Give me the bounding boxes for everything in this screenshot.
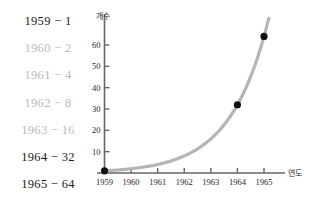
chart-svg: 102030405060 195919601961196219631964196… <box>0 0 315 205</box>
data-point <box>101 167 108 174</box>
x-tick-label: 1960 <box>123 177 140 187</box>
exponential-growth-chart: 102030405060 195919601961196219631964196… <box>0 0 315 205</box>
data-point-markers <box>101 33 268 175</box>
y-tick-label: 40 <box>92 83 101 93</box>
data-point <box>260 33 267 40</box>
x-tick-label: 1963 <box>202 177 219 187</box>
figure-root: 1959 − 11960 − 21961 − 41962 − 81963 − 1… <box>0 0 315 205</box>
growth-curve <box>105 18 269 171</box>
data-point <box>234 101 241 108</box>
x-axis-title: 연도 <box>288 169 302 178</box>
x-tick-label: 1961 <box>149 177 166 187</box>
y-tick-label: 10 <box>92 147 101 157</box>
y-tick-label: 50 <box>92 61 101 71</box>
x-tick-label: 1964 <box>229 177 247 187</box>
y-tick-label: 30 <box>92 104 101 114</box>
x-tick-label: 1962 <box>176 177 193 187</box>
y-tick-label: 60 <box>92 40 101 50</box>
y-axis-title: 개수 <box>96 11 110 21</box>
x-tick-label: 1959 <box>96 177 113 187</box>
x-axis-tick-labels: 1959196019611962196319641965 <box>96 177 273 187</box>
x-tick-label: 1965 <box>256 177 273 187</box>
y-axis-tick-labels: 102030405060 <box>92 40 101 157</box>
y-tick-label: 20 <box>92 125 101 135</box>
